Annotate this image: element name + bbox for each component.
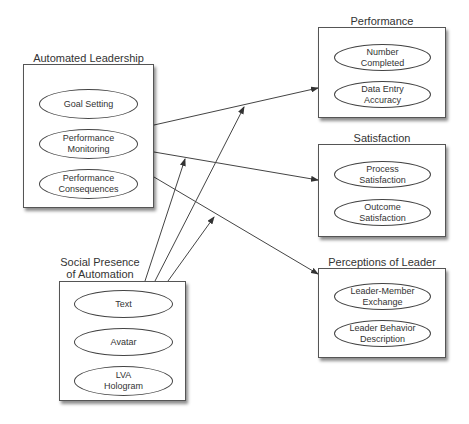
arrow-sp-moderates-perceptions (168, 217, 214, 281)
automated-leadership-box: Goal Setting Performance Monitoring Perf… (23, 64, 154, 208)
oval-leader-member-exchange: Leader-Member Exchange (334, 283, 431, 310)
oval-performance-monitoring: Performance Monitoring (39, 129, 138, 159)
oval-goal-setting: Goal Setting (39, 89, 138, 119)
oval-performance-consequences: Performance Consequences (39, 169, 138, 199)
oval-avatar: Avatar (74, 328, 173, 356)
social-presence-box: Text Avatar LVA Hologram (59, 281, 186, 401)
arrow-al-to-satisfaction (154, 152, 318, 180)
satisfaction-box: Process Satisfaction Outcome Satisfactio… (318, 144, 446, 237)
performance-box: Number Completed Data Entry Accuracy (318, 27, 446, 118)
arrow-sp-moderates-performance (155, 107, 244, 281)
perceptions-of-leader-box: Leader-Member Exchange Leader Behavior D… (318, 268, 446, 358)
oval-leader-behavior-description: Leader Behavior Description (334, 320, 431, 347)
oval-number-completed: Number Completed (334, 44, 431, 71)
oval-data-entry-accuracy: Data Entry Accuracy (334, 81, 431, 108)
arrow-al-to-performance (154, 88, 318, 125)
oval-outcome-satisfaction: Outcome Satisfaction (334, 199, 431, 226)
social-presence-title-line2: of Automation (40, 268, 160, 281)
arrow-al-to-perceptions (154, 177, 318, 274)
oval-lva-hologram: LVA Hologram (74, 366, 173, 396)
oval-process-satisfaction: Process Satisfaction (334, 161, 431, 188)
oval-text: Text (74, 290, 173, 318)
